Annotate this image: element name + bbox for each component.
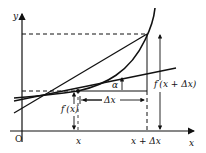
y-axis-label: y bbox=[12, 11, 19, 21]
f-x-label: f′(x) bbox=[60, 104, 79, 114]
tangent-line bbox=[14, 68, 176, 101]
secant-line bbox=[14, 34, 147, 113]
alpha-label: α bbox=[112, 80, 118, 90]
origin-label: O bbox=[15, 134, 22, 144]
x-plus-dx-tick-label: x + Δx bbox=[131, 136, 161, 146]
x-axis-label: x bbox=[189, 138, 194, 148]
f-x-plus-dx-label: f′(x + Δx) bbox=[153, 79, 197, 89]
function-curve bbox=[14, 8, 155, 98]
derivative-diagram: Δx α f′(x + Δx) f′(x) y x O x x + Δx bbox=[0, 0, 206, 153]
x-tick-label: x bbox=[76, 136, 81, 146]
delta-x-label: Δx bbox=[103, 95, 116, 105]
point-p bbox=[76, 89, 80, 93]
